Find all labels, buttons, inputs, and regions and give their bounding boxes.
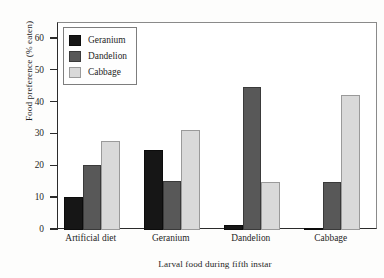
y-axis-tick-label: 50 — [18, 65, 44, 75]
bar-artificial-diet-cabbage — [101, 141, 120, 230]
legend-swatch-icon — [69, 35, 81, 46]
bar-dandelion-geranium — [224, 225, 243, 230]
y-axis-tick-label: 60 — [18, 33, 44, 43]
bar-dandelion-dandelion — [243, 87, 262, 230]
y-axis-tick-label: 40 — [18, 97, 44, 107]
bar-cabbage-dandelion — [323, 182, 342, 230]
x-axis-category-label: Cabbage — [281, 233, 381, 243]
legend-item-geranium: Geranium — [69, 32, 127, 48]
legend-swatch-icon — [69, 51, 81, 62]
y-axis-tick-label: 10 — [18, 192, 44, 202]
x-axis-title: Larval food during fifth instar — [55, 259, 375, 269]
bar-geranium-dandelion — [163, 181, 182, 230]
legend-label: Dandelion — [88, 51, 127, 62]
bar-dandelion-cabbage — [261, 182, 280, 230]
bar-artificial-diet-dandelion — [83, 165, 102, 230]
legend-label: Cabbage — [88, 67, 121, 78]
y-axis-tick-label: 30 — [18, 128, 44, 138]
bar-geranium-cabbage — [181, 130, 200, 230]
legend-label: Geranium — [88, 35, 126, 46]
legend-item-cabbage: Cabbage — [69, 64, 127, 80]
bar-chart-figure: Food preference (% eaten) 0102030405060 … — [0, 0, 384, 278]
legend: GeraniumDandelionCabbage — [63, 27, 137, 85]
bar-geranium-geranium — [144, 150, 163, 230]
bar-artificial-diet-geranium — [64, 197, 83, 230]
bar-cabbage-cabbage — [341, 95, 360, 230]
legend-item-dandelion: Dandelion — [69, 48, 127, 64]
legend-swatch-icon — [69, 67, 81, 78]
bar-cabbage-geranium — [304, 228, 323, 230]
y-axis-tick-label: 20 — [18, 160, 44, 170]
